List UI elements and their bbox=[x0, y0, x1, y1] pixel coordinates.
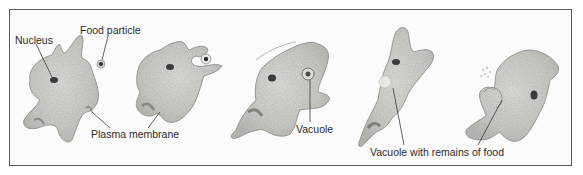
food-particle-stage-1 bbox=[97, 60, 105, 68]
label-nucleus: Nucleus bbox=[15, 34, 53, 46]
nucleus-stage-5 bbox=[531, 91, 538, 100]
amoeba-stage-2 bbox=[136, 42, 222, 123]
amoeba-stage-5 bbox=[466, 50, 559, 141]
amoeba-stage-1 bbox=[24, 35, 99, 142]
leader-plasma-membrane-1 bbox=[92, 112, 110, 128]
leader-food-particle bbox=[102, 36, 108, 60]
engulfed-food-particle bbox=[204, 57, 208, 61]
label-plasma-membrane: Plasma membrane bbox=[91, 128, 179, 140]
nucleus-stage-3 bbox=[268, 75, 276, 82]
vacuole-remains-stage-4 bbox=[379, 76, 391, 88]
label-food-particle: Food particle bbox=[80, 24, 141, 36]
label-vacuole-remains: Vacuole with remains of food bbox=[370, 146, 504, 158]
label-vacuole: Vacuole bbox=[296, 123, 333, 135]
expelled-food-remains bbox=[480, 67, 491, 78]
amoeba-stage-4 bbox=[359, 28, 434, 147]
nucleus-stage-4 bbox=[392, 59, 400, 65]
nucleus-stage-2 bbox=[166, 64, 174, 70]
nucleus-stage-1 bbox=[50, 77, 58, 83]
